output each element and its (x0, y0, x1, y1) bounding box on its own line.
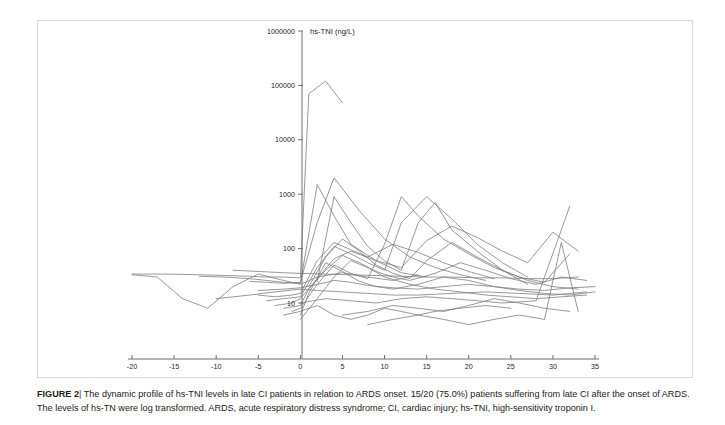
x-axis-tick-label: -5 (255, 362, 261, 371)
caption-text-line2: The levels of hs-TN were log transformed… (37, 403, 595, 413)
x-axis-tick-label: 10 (381, 362, 389, 371)
axis-labels-layer: 101001000100001000001000000-20-15-10-505… (127, 27, 599, 379)
x-axis-tick-label: -15 (169, 362, 179, 371)
figure-panel: 101001000100001000001000000-20-15-10-505… (37, 20, 693, 378)
x-axis-title: Days from onset of ARDS (320, 378, 407, 379)
x-axis-tick-label: 5 (340, 362, 344, 371)
caption-separator: | (79, 389, 81, 399)
series-line (309, 239, 578, 289)
y-axis-tick-label: 100 (283, 244, 295, 253)
hs-tni-spaghetti-chart: 101001000100001000001000000-20-15-10-505… (38, 21, 694, 379)
series-line (132, 81, 342, 278)
series-line (216, 289, 586, 299)
x-axis-tick-label: 0 (298, 362, 302, 371)
x-axis-tick-label: 20 (465, 362, 473, 371)
y-axis-tick-label: 1000 (279, 190, 295, 199)
figure-label: FIGURE 2 (37, 389, 79, 399)
x-axis-tick-label: 30 (549, 362, 557, 371)
series-line (284, 305, 511, 319)
series-layer (132, 81, 595, 325)
figure-page: 101001000100001000001000000-20-15-10-505… (0, 0, 725, 425)
x-axis-tick-label: 15 (423, 362, 431, 371)
x-axis-tick-label: 25 (507, 362, 515, 371)
caption-text-line1: The dynamic profile of hs-TNI levels in … (84, 389, 690, 399)
y-axis-title: hs-TNI (ng/L) (310, 27, 355, 36)
y-axis-tick-label: 100000 (271, 81, 295, 90)
y-axis-tick-label: 10000 (275, 135, 295, 144)
x-axis-tick-label: 35 (591, 362, 599, 371)
x-axis-tick-label: -20 (127, 362, 137, 371)
x-axis-tick-label: -10 (211, 362, 221, 371)
axes-layer (128, 31, 599, 359)
y-axis-tick-label: 10 (287, 299, 295, 308)
figure-caption: FIGURE 2| The dynamic profile of hs-TNI … (37, 388, 693, 415)
y-axis-tick-label: 1000000 (267, 27, 295, 36)
